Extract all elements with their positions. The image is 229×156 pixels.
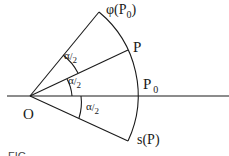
label-s-p: s(P)	[137, 132, 160, 148]
label-p: P	[133, 39, 141, 55]
ray-to-s-p	[30, 96, 128, 141]
angle-arc-lower	[79, 96, 81, 118]
label-origin: O	[23, 106, 34, 122]
caption-fragment: FIG	[8, 150, 26, 156]
sector-arc	[99, 12, 138, 141]
label-phi-p0: φ(P0)	[106, 2, 137, 20]
label-p0: P0	[143, 76, 158, 95]
angle-label-middle: α/2	[68, 74, 81, 90]
angle-label-lower: α/2	[86, 100, 99, 116]
sector-diagram: O φ(P0) P P0 s(P) α/2 α/2 α/2 FIG	[0, 0, 229, 156]
